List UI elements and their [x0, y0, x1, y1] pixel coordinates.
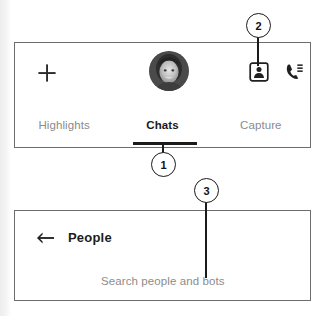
- callout-marker-3: 3: [194, 178, 219, 203]
- scan-edge-shading: [0, 0, 11, 316]
- callout-leader-2: [257, 36, 259, 66]
- tab-capture[interactable]: Capture: [212, 120, 310, 132]
- chats-screen-panel: Highlights Chats Capture: [14, 42, 311, 148]
- avatar[interactable]: [149, 51, 189, 91]
- back-button[interactable]: [33, 228, 57, 248]
- callout-marker-2: 2: [246, 13, 271, 38]
- add-button[interactable]: [33, 59, 61, 87]
- callout-leader-3: [205, 200, 207, 278]
- people-screen-panel: People Search people and bots: [14, 210, 311, 301]
- app-bar: [15, 43, 310, 105]
- page-title: People: [68, 228, 112, 248]
- call-log-button[interactable]: [282, 60, 306, 84]
- tab-highlights[interactable]: Highlights: [15, 120, 113, 132]
- tab-bar: Highlights Chats Capture: [15, 105, 310, 147]
- chats-tab-indicator: [133, 142, 197, 145]
- callout-marker-1: 1: [151, 152, 176, 177]
- screenshot-canvas: Highlights Chats Capture People Search p…: [0, 0, 326, 316]
- tab-chats[interactable]: Chats: [113, 120, 211, 132]
